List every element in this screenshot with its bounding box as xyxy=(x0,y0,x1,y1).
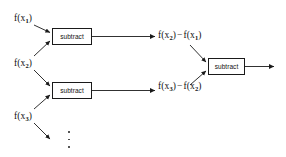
input-label-fx3: f(x3) xyxy=(14,112,32,122)
fx3-close: ) xyxy=(29,111,32,121)
diff1-right-close: ) xyxy=(198,30,201,40)
diff2-right-base: f(x xyxy=(183,81,194,91)
ellipsis-dot-2 xyxy=(68,139,70,141)
fx1-close: ) xyxy=(29,13,32,23)
diff2-left-base: f(x xyxy=(158,81,169,91)
diff1-right-subscript: 1 xyxy=(195,34,198,41)
ellipsis-dot-1 xyxy=(68,131,70,133)
fx3-subscript: 3 xyxy=(25,115,28,122)
subtract-box-1-label: subtract xyxy=(60,33,84,40)
subtract-box-3[interactable]: subtract xyxy=(208,58,245,75)
input-label-fx2: f(x2) xyxy=(14,59,32,69)
input-label-fx1: f(x1) xyxy=(14,14,32,24)
intermediate-label-diff1: f(x2)−f(x1) xyxy=(158,31,202,41)
subtract-box-1[interactable]: subtract xyxy=(52,28,92,45)
diagram-canvas: f(x1) f(x2) f(x3) f(x2)−f(x1) f(x3)−f(x2… xyxy=(0,0,286,157)
ellipsis-dot-3 xyxy=(68,146,70,148)
connector-fx3-to-subtract2 xyxy=(34,95,50,109)
connector-fx2-to-subtract1 xyxy=(34,41,50,56)
diagram-connectors xyxy=(0,0,286,157)
connector-diff1-to-subtract3 xyxy=(190,45,206,62)
subtract-box-2[interactable]: subtract xyxy=(52,82,92,99)
fx1-subscript: 1 xyxy=(25,17,28,24)
diff1-right-base: f(x xyxy=(183,30,194,40)
connector-fx1-to-subtract1 xyxy=(34,25,50,33)
fx2-base: f(x xyxy=(14,58,25,68)
subtract-box-2-label: subtract xyxy=(60,87,84,94)
diff2-left-subscript: 3 xyxy=(169,85,172,92)
connector-fx3-trailing xyxy=(34,123,50,139)
diff1-left-base: f(x xyxy=(158,30,169,40)
subtract-box-3-label: subtract xyxy=(215,63,239,70)
diff2-right-subscript: 2 xyxy=(195,85,198,92)
diff2-right-close: ) xyxy=(198,81,201,91)
intermediate-label-diff2: f(x3)−f(x2) xyxy=(158,82,202,92)
connector-fx2-to-subtract2 xyxy=(34,70,50,86)
fx2-close: ) xyxy=(29,58,32,68)
fx1-base: f(x xyxy=(14,13,25,23)
vertical-ellipsis-icon xyxy=(67,131,71,148)
fx3-base: f(x xyxy=(14,111,25,121)
fx2-subscript: 2 xyxy=(25,62,28,69)
diff1-left-subscript: 2 xyxy=(169,34,172,41)
